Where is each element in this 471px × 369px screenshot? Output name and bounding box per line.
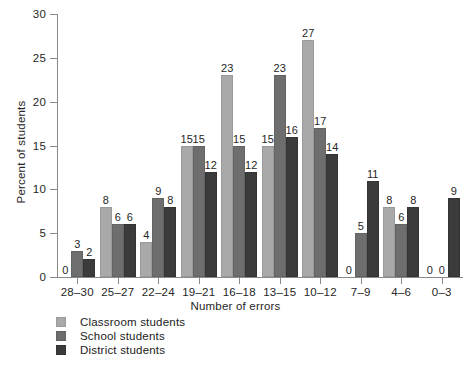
- bar-value-label: 11: [362, 168, 384, 180]
- legend-item: School students: [56, 329, 185, 343]
- y-axis-tick-label: 25: [16, 52, 46, 64]
- dark-gray-swatch: [56, 345, 66, 355]
- x-axis-tick: [442, 278, 443, 284]
- bar: [367, 181, 379, 277]
- x-axis-tick: [239, 278, 240, 284]
- bar-value-label: 15: [228, 133, 250, 145]
- x-axis-tick: [280, 278, 281, 284]
- bar: [112, 224, 124, 277]
- y-axis-tick: [50, 58, 57, 59]
- bar-value-label: 12: [240, 159, 262, 171]
- bar-group: 032: [59, 14, 95, 277]
- bar-value-label: 27: [297, 27, 319, 39]
- bar: [407, 207, 419, 277]
- y-axis-tick-label: 5: [16, 227, 46, 239]
- bar: [140, 242, 152, 277]
- x-axis-tick: [320, 278, 321, 284]
- chart-legend: Classroom studentsSchool studentsDistric…: [56, 315, 185, 357]
- bar-value-label: 2: [78, 246, 100, 258]
- y-axis-tick-label: 0: [16, 271, 46, 283]
- bar: [274, 75, 286, 277]
- y-axis-tick: [50, 189, 57, 190]
- bar: [221, 75, 233, 277]
- x-axis-title: Number of errors: [0, 300, 471, 312]
- x-axis-tick: [361, 278, 362, 284]
- bar: [205, 172, 217, 277]
- bar-group: 151512: [181, 14, 217, 277]
- x-axis-tick: [118, 278, 119, 284]
- bar: [245, 172, 257, 277]
- legend-item: Classroom students: [56, 315, 185, 329]
- plot-area: 0328664981515122315121523162717140511868…: [57, 14, 462, 277]
- bar: [395, 224, 407, 277]
- bar: [286, 137, 298, 277]
- bar-value-label: 9: [443, 185, 465, 197]
- y-axis-tick: [50, 146, 57, 147]
- bar: [355, 233, 367, 277]
- bar-value-label: 8: [378, 194, 400, 206]
- bar-group: 868: [383, 14, 419, 277]
- bar: [164, 207, 176, 277]
- x-axis-tick: [158, 278, 159, 284]
- legend-item-label: District students: [80, 344, 165, 356]
- bar-group: 009: [424, 14, 460, 277]
- bar: [262, 146, 274, 278]
- bar-group: 271714: [302, 14, 338, 277]
- y-axis-title: Percent of students: [15, 87, 27, 217]
- x-axis-tick: [401, 278, 402, 284]
- x-axis-tick-label: 0–3: [412, 286, 471, 298]
- bar-value-label: 14: [321, 141, 343, 153]
- bar-value-label: 12: [200, 159, 222, 171]
- bar: [326, 154, 338, 277]
- legend-item-label: Classroom students: [80, 316, 185, 328]
- bar-group: 0511: [343, 14, 379, 277]
- bar-group: 231512: [221, 14, 257, 277]
- medium-gray-swatch: [56, 331, 66, 341]
- bar-group: 866: [100, 14, 136, 277]
- bar-value-label: 16: [281, 124, 303, 136]
- legend-item: District students: [56, 343, 185, 357]
- y-axis-tick-label: 30: [16, 8, 46, 20]
- x-axis-tick: [77, 278, 78, 284]
- bar-chart: 051015202530 Percent of students 0328664…: [0, 0, 471, 369]
- x-axis-tick: [199, 278, 200, 284]
- y-axis-tick: [50, 102, 57, 103]
- bar: [83, 259, 95, 277]
- bar: [152, 198, 164, 277]
- y-axis-tick: [50, 233, 57, 234]
- bar-value-label: 8: [159, 194, 181, 206]
- light-gray-swatch: [56, 317, 66, 327]
- bar: [181, 146, 193, 278]
- bar: [302, 40, 314, 277]
- bar-value-label: 23: [269, 62, 291, 74]
- bar-value-label: 8: [95, 194, 117, 206]
- bar-group: 498: [140, 14, 176, 277]
- legend-item-label: School students: [80, 330, 165, 342]
- bar-value-label: 15: [188, 133, 210, 145]
- bar-value-label: 23: [216, 62, 238, 74]
- y-axis-tick: [50, 14, 57, 15]
- bar: [124, 224, 136, 277]
- bar-value-label: 8: [402, 194, 424, 206]
- bar-value-label: 17: [309, 115, 331, 127]
- bar-group: 152316: [262, 14, 298, 277]
- y-axis-tick: [50, 277, 57, 278]
- bar: [448, 198, 460, 277]
- bar-value-label: 6: [119, 211, 141, 223]
